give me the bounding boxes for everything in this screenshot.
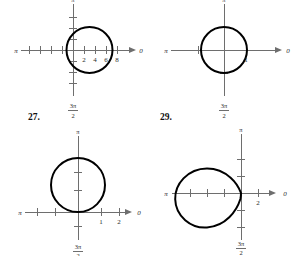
x-tick-label: 8: [115, 56, 119, 64]
x-tick-label: 4: [93, 56, 97, 64]
axis-label-zero: 0: [286, 47, 290, 55]
x-tick-label: 6: [104, 56, 108, 64]
axis-label-pi-over-2-numerator: π: [76, 128, 80, 135]
x-tick-label: 2: [82, 56, 86, 64]
problem-number-29: 29.: [160, 113, 172, 123]
axis-label-pi-over-2-numerator: π: [71, 0, 75, 3]
axis-label-3pi-over-2-numerator: 3π: [75, 243, 82, 250]
axis-label-pi-over-2-numerator: π: [239, 128, 243, 133]
axis-label-3pi-over-2-denominator: 2: [76, 252, 79, 256]
polar-plot-top-left: 2 4 6 8 0 π π 3π 2: [0, 0, 147, 128]
axis-label-pi: π: [18, 209, 22, 217]
axis-label-3pi-over-2-denominator: 2: [71, 112, 74, 119]
horizontal-axis-arrow: [129, 47, 136, 53]
axis-label-zero: 0: [283, 190, 287, 198]
axis-label-pi: π: [164, 190, 168, 198]
x-tick-label: 1: [99, 218, 103, 226]
horizontal-axis-arrow: [275, 47, 282, 53]
horizontal-axis-arrow: [125, 209, 132, 215]
x-tick-label: 2: [117, 218, 121, 226]
axis-label-pi-over-2-numerator: π: [222, 0, 226, 3]
polar-plot-bottom-left: 1 2 0 π π 3π 2: [0, 128, 147, 256]
axis-label-pi: π: [164, 47, 168, 55]
axis-label-zero: 0: [139, 47, 143, 55]
polar-curve: [175, 169, 241, 228]
axis-label-3pi-over-2-numerator: 3π: [238, 240, 245, 247]
axis-label-zero: 0: [137, 209, 141, 217]
horizontal-axis-arrow: [269, 190, 276, 196]
axis-label-3pi-over-2-numerator: 3π: [70, 102, 77, 109]
axis-label-pi: π: [14, 47, 18, 55]
axis-label-3pi-over-2-denominator: 2: [239, 249, 242, 256]
figure-page: 2 4 6 8 0 π π 3π 2 1 0 π π 3π: [0, 0, 294, 257]
x-tick-label: 1: [244, 56, 248, 64]
axis-label-3pi-over-2-numerator: 3π: [221, 102, 228, 109]
polar-plot-top-right: 1 0 π π 3π 2: [147, 0, 294, 128]
problem-number-27: 27.: [28, 113, 40, 123]
axis-label-3pi-over-2-denominator: 2: [222, 112, 225, 119]
polar-plot-bottom-right: 2 0 π π 3π 2: [147, 128, 294, 256]
x-tick-label: 2: [256, 199, 260, 207]
